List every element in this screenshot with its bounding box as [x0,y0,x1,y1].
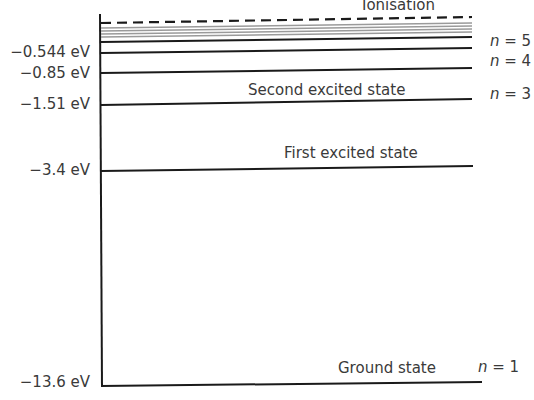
energy-label-n2: −3.4 eV [0,163,90,178]
level-n2-line [101,166,473,171]
n-label-4: n = 4 [490,54,531,69]
n-label-1: n = 1 [478,360,519,375]
level-n3-line [101,99,472,105]
n-label-3: n = 3 [490,87,531,102]
ionisation-line [101,17,472,23]
level-n6-line [101,37,472,42]
level-n1-line [101,382,482,386]
level-n4-line [101,68,472,73]
energy-axis [100,14,102,387]
ionisation-label: Ionisation [362,0,435,13]
energy-label-n3: −1.51 eV [0,97,90,112]
ground-state-label: Ground state [338,361,436,376]
n-label-5: n = 5 [490,34,531,49]
energy-label-n5: −0.544 eV [0,45,90,60]
level-n5-line [101,48,472,53]
energy-label-n4: −0.85 eV [0,66,90,81]
second-excited-state-label: Second excited state [248,83,405,98]
first-excited-state-label: First excited state [284,146,418,161]
energy-label-n1: −13.6 eV [0,375,90,390]
